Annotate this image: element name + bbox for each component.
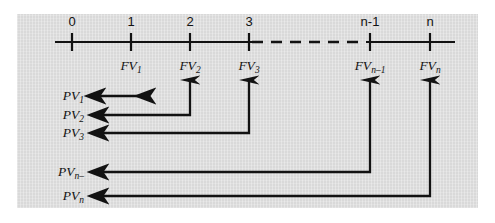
pv-label-3-base: PV <box>63 125 80 140</box>
pv-label-3-subscript: 3 <box>79 132 84 142</box>
pv-label-n-minus-1-subscript: n– <box>75 171 85 181</box>
pv-label-1-base: PV <box>63 88 80 103</box>
fv-label-2: FV2 <box>179 59 200 73</box>
fv-label-n: FVn <box>419 59 440 73</box>
pv2-arrow <box>92 80 190 115</box>
fv-label-1-base: FV <box>120 58 137 73</box>
fv-label-3-base: FV <box>238 58 255 73</box>
pv-label-n-subscript: n <box>79 195 84 205</box>
pv-label-2-base: PV <box>63 107 80 122</box>
pv-label-1: PV1 <box>63 89 84 103</box>
pv-n-minus-1-arrow <box>92 80 370 172</box>
figure-root: 0 1 2 3 n-1 n FV1 FV2 FV3 FVn–1 FVn PV1 … <box>0 0 495 223</box>
fv-label-3: FV3 <box>238 59 259 73</box>
fv-label-n-subscript: n <box>436 65 441 75</box>
pv-label-n-minus-1-base: PV <box>58 164 75 179</box>
period-label-2: 2 <box>186 15 193 28</box>
fv-label-n-1: FVn–1 <box>355 59 386 73</box>
pv-label-3: PV3 <box>63 126 84 140</box>
fv-label-n-1-base: FV <box>355 58 372 73</box>
pv-n-arrow <box>92 80 430 196</box>
pv-label-2-subscript: 2 <box>79 114 84 124</box>
period-label-1: 1 <box>127 15 134 28</box>
fv-label-2-subscript: 2 <box>196 65 201 75</box>
pv-label-n-minus-1: PVn– <box>58 165 84 179</box>
fv-label-3-subscript: 3 <box>255 65 260 75</box>
fv-label-n-base: FV <box>419 58 436 73</box>
pv3-arrow <box>92 80 249 133</box>
fv-label-1-subscript: 1 <box>137 65 142 75</box>
fv-label-1: FV1 <box>120 59 141 73</box>
pv-label-1-subscript: 1 <box>79 95 84 105</box>
period-label-n-1: n-1 <box>361 15 380 28</box>
fv-label-n-1-subscript: n–1 <box>371 65 385 75</box>
period-label-n: n <box>426 15 433 28</box>
period-label-3: 3 <box>245 15 252 28</box>
fv-label-2-base: FV <box>179 58 196 73</box>
pv-label-n: PVn <box>63 189 84 203</box>
pv-label-2: PV2 <box>63 108 84 122</box>
pv-label-n-base: PV <box>63 188 80 203</box>
period-label-0: 0 <box>68 15 75 28</box>
